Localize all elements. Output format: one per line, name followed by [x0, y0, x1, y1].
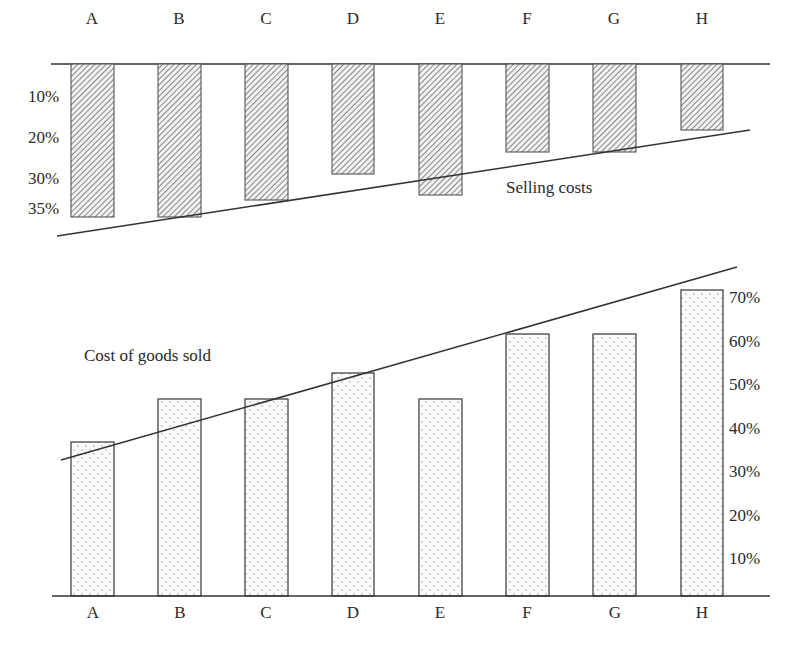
cogs-bar-h	[681, 290, 723, 596]
top-tick-label: 35%	[28, 199, 59, 218]
cogs-bar-g	[593, 334, 636, 596]
bottom-category-label: G	[609, 603, 621, 622]
cogs-bar-d	[332, 373, 374, 596]
bottom-bars	[71, 290, 723, 596]
bottom-category-label: A	[87, 603, 100, 622]
bottom-tick-label: 70%	[729, 288, 760, 307]
bottom-tick-label: 50%	[729, 375, 760, 394]
selling-cost-bar-h	[681, 64, 723, 130]
cogs-bar-b	[158, 399, 201, 596]
bottom-category-label: H	[696, 603, 708, 622]
cogs-bar-e	[419, 399, 462, 596]
selling-cost-bar-g	[593, 64, 636, 152]
selling-costs-chart: A B C D E F G H 10% 20% 30% 35%	[28, 9, 770, 236]
selling-cost-bar-a	[71, 64, 114, 217]
bottom-y-ticks: 10% 20% 30% 40% 50% 60% 70%	[729, 288, 760, 568]
selling-cost-bar-f	[506, 64, 549, 152]
bottom-category-label: D	[347, 603, 359, 622]
bottom-category-label: E	[435, 603, 445, 622]
top-category-label: A	[86, 9, 99, 28]
cogs-bar-f	[506, 334, 549, 596]
bottom-category-label: C	[260, 603, 271, 622]
top-category-label: B	[173, 9, 184, 28]
top-category-labels: A B C D E F G H	[86, 9, 708, 28]
cogs-bar-c	[245, 399, 288, 596]
cogs-annotation: Cost of goods sold	[84, 346, 212, 365]
top-category-label: C	[260, 9, 271, 28]
top-category-label: E	[435, 9, 445, 28]
top-category-label: D	[347, 9, 359, 28]
top-bars	[71, 64, 723, 217]
selling-cost-bar-b	[158, 64, 201, 217]
bottom-tick-label: 20%	[729, 506, 760, 525]
bottom-tick-label: 30%	[729, 462, 760, 481]
bottom-category-label: B	[174, 603, 185, 622]
bottom-tick-label: 60%	[729, 332, 760, 351]
bottom-tick-label: 40%	[729, 419, 760, 438]
top-tick-label: 20%	[28, 128, 59, 147]
top-category-label: H	[696, 9, 708, 28]
selling-costs-annotation: Selling costs	[506, 178, 592, 197]
top-category-label: G	[608, 9, 620, 28]
top-tick-label: 10%	[28, 87, 59, 106]
cogs-chart: Cost of goods sold 10% 20% 30% 40% 50% 6…	[52, 267, 770, 622]
top-y-ticks: 10% 20% 30% 35%	[28, 87, 59, 218]
cost-structure-chart: A B C D E F G H 10% 20% 30% 35%	[0, 0, 805, 659]
cogs-bar-a	[71, 442, 114, 596]
bottom-category-label: F	[522, 603, 531, 622]
bottom-tick-label: 10%	[729, 549, 760, 568]
top-tick-label: 30%	[28, 169, 59, 188]
top-category-label: F	[522, 9, 531, 28]
bottom-category-labels: A B C D E F G H	[87, 603, 708, 622]
selling-cost-bar-d	[332, 64, 374, 174]
selling-cost-bar-c	[245, 64, 288, 200]
